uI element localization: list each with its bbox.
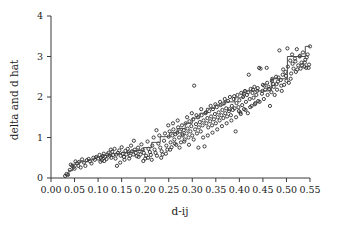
- data-point: [206, 134, 209, 137]
- data-point: [178, 146, 181, 149]
- x-tick-label: 0.25: [158, 184, 179, 195]
- data-point: [155, 129, 158, 132]
- data-point: [194, 128, 197, 131]
- data-point: [164, 152, 167, 155]
- data-point: [228, 108, 231, 111]
- data-point: [266, 81, 269, 84]
- axis-spine-path: [51, 16, 310, 178]
- data-point: [307, 63, 310, 66]
- data-point: [190, 125, 193, 128]
- data-point: [195, 132, 198, 135]
- data-point: [216, 116, 219, 119]
- data-point: [291, 53, 294, 56]
- data-point: [246, 112, 249, 115]
- data-point: [126, 147, 129, 150]
- data-point: [187, 143, 190, 146]
- data-point: [286, 47, 289, 50]
- data-point: [291, 62, 294, 65]
- data-point: [225, 122, 228, 125]
- y-axis-ticks: [47, 16, 51, 178]
- data-point: [114, 157, 117, 160]
- data-point: [169, 141, 172, 144]
- x-tick-label: 0.00: [40, 184, 61, 195]
- data-point: [207, 126, 210, 129]
- data-point: [160, 156, 163, 159]
- data-point: [244, 100, 247, 103]
- data-point: [120, 146, 123, 149]
- data-point: [241, 104, 244, 107]
- data-point: [281, 73, 284, 76]
- data-point: [197, 146, 200, 149]
- y-tick-label: 1: [37, 132, 43, 143]
- data-point: [205, 122, 208, 125]
- data-point: [217, 111, 220, 114]
- data-point: [278, 49, 281, 52]
- data-point: [185, 132, 188, 135]
- data-point: [206, 116, 209, 119]
- data-point: [132, 139, 135, 142]
- data-point: [200, 114, 203, 117]
- data-point: [268, 104, 271, 107]
- data-point: [142, 151, 145, 154]
- data-point: [197, 126, 200, 129]
- scatter-points-group: [64, 45, 312, 178]
- data-point: [209, 104, 212, 107]
- x-tick-label: 0.45: [252, 184, 273, 195]
- data-point: [198, 121, 201, 124]
- data-point: [289, 77, 292, 80]
- data-point: [301, 51, 304, 54]
- data-point: [230, 104, 233, 107]
- data-point: [153, 148, 156, 151]
- data-point: [287, 81, 290, 84]
- y-axis-tick-labels: 01234: [37, 10, 43, 183]
- data-point: [247, 73, 250, 76]
- data-point: [180, 124, 183, 127]
- data-point: [218, 100, 221, 103]
- x-tick-label: 0.55: [299, 184, 320, 195]
- data-point: [150, 158, 153, 161]
- data-point: [236, 93, 239, 96]
- data-point: [266, 93, 269, 96]
- x-tick-label: 0.10: [88, 184, 109, 195]
- plot-canvas: 0.000.050.100.150.200.250.300.350.400.45…: [0, 0, 337, 225]
- data-point: [167, 124, 170, 127]
- data-point: [119, 161, 122, 164]
- data-point: [225, 107, 228, 110]
- data-point: [228, 95, 231, 98]
- data-point: [292, 67, 295, 70]
- x-tick-label: 0.20: [135, 184, 156, 195]
- data-point: [162, 139, 165, 142]
- data-point: [252, 96, 255, 99]
- data-point: [80, 158, 83, 161]
- data-point: [203, 145, 206, 148]
- data-point: [202, 136, 205, 139]
- data-point: [230, 119, 233, 122]
- axis-spines: [51, 16, 310, 178]
- data-point: [200, 108, 203, 111]
- y-tick-label: 0: [37, 172, 43, 183]
- data-point: [142, 159, 145, 162]
- data-point: [84, 164, 87, 167]
- data-point: [218, 119, 221, 122]
- data-point: [295, 48, 298, 51]
- data-point: [220, 125, 223, 128]
- data-point: [146, 140, 149, 143]
- data-point: [297, 64, 300, 67]
- data-point: [280, 89, 283, 92]
- data-point: [165, 144, 168, 147]
- data-point: [137, 146, 140, 149]
- x-tick-label: 0.15: [111, 184, 132, 195]
- data-point: [187, 136, 190, 139]
- y-tick-label: 2: [37, 91, 43, 102]
- data-point: [202, 119, 205, 122]
- data-point: [199, 130, 202, 133]
- data-point: [113, 147, 116, 150]
- x-axis-ticks: [51, 178, 310, 182]
- x-tick-label: 0.50: [276, 184, 297, 195]
- x-tick-label: 0.30: [182, 184, 203, 195]
- data-point: [248, 97, 251, 100]
- data-point: [160, 150, 163, 153]
- data-point: [212, 118, 215, 121]
- data-point: [237, 106, 240, 109]
- data-point: [176, 119, 179, 122]
